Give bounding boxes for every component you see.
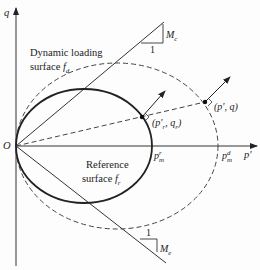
q-axis-label: q — [4, 8, 9, 19]
rp-close: ) — [178, 117, 181, 128]
pm-r-label: prm — [154, 150, 164, 164]
reference-point — [140, 115, 144, 119]
slope-triangle-extension — [140, 239, 157, 252]
rp-part2: , q — [165, 117, 175, 128]
origin-label: O — [3, 141, 11, 152]
p-axis-label: p' — [244, 150, 252, 161]
diagram-graphics — [0, 0, 260, 270]
mc-sub: c — [174, 35, 177, 43]
current-point-label: (p', q) — [214, 102, 238, 112]
dynamic-surface-label-line1: Dynamic loading — [30, 48, 103, 59]
me-rise-label: Me — [160, 244, 171, 257]
reference-surface-subscript: r — [118, 179, 121, 187]
reference-point-label: (p'r, qr) — [152, 118, 181, 131]
critical-state-line-compression — [16, 22, 164, 146]
me-sub: e — [168, 249, 171, 257]
pmd-sub: m — [227, 157, 232, 164]
reference-surface-word: surface — [82, 173, 115, 184]
reference-surface-label-line2: surface fr — [82, 174, 121, 187]
current-stress-point — [203, 100, 207, 104]
reference-surface-label-line1: Reference — [86, 160, 129, 171]
dynamic-surface-word: surface — [30, 61, 63, 72]
right-angle-mark-current — [208, 98, 212, 106]
slope-triangle-compression — [141, 24, 163, 43]
pm-d-label: pdm — [222, 150, 232, 164]
rp-part1: (p' — [152, 117, 162, 128]
dynamic-surface-label-line2: surface fd — [30, 62, 69, 75]
mc-run-label: 1 — [150, 45, 155, 55]
diagram-canvas: q p' O Dynamic loading surface fd Refere… — [0, 0, 260, 270]
pmr-sub: m — [159, 157, 164, 164]
mc-rise-label: Mc — [166, 30, 177, 43]
dynamic-surface-subscript: d — [66, 67, 70, 75]
me-run-label: 1 — [146, 228, 151, 238]
